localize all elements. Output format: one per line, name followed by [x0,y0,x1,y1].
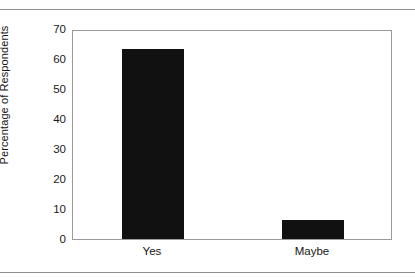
y-axis-tick-label: 10 [40,204,66,216]
y-axis-tick-label: 40 [40,114,66,126]
bar-maybe [282,220,344,239]
top-divider-rule [0,9,415,10]
y-axis-tick-label: 20 [40,174,66,186]
x-axis-tick-labels: YesMaybe [72,245,392,265]
y-axis-tick-label: 60 [40,54,66,66]
y-axis-tick-label: 30 [40,144,66,156]
x-axis-tick-label: Maybe [232,245,392,257]
bar-slot [73,31,233,239]
bar-yes [122,49,184,240]
y-axis-tick-labels: 706050403020100 [40,30,66,240]
x-axis-tick-label: Yes [72,245,232,257]
bottom-divider-rule [0,272,415,273]
plot-frame [72,30,392,240]
y-axis-tick-label: 0 [40,234,66,246]
y-axis-title: Percentage of Respondents [0,0,10,275]
bar-slot [233,31,393,239]
plot-area [73,31,391,239]
y-axis-tick-label: 70 [40,24,66,36]
y-axis-tick-label: 50 [40,84,66,96]
bar-chart-figure: Percentage of Respondents 70605040302010… [0,0,415,277]
